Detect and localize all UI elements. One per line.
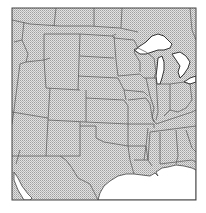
us-central-map — [0, 0, 206, 213]
